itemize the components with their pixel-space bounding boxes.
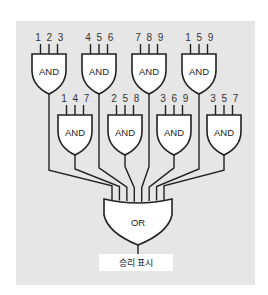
tic-tac-toe-win-logic-diagram: 1 2 3AND4 5 6AND7 8 9AND1 5 9AND1 4 7AND… bbox=[0, 0, 268, 295]
input-label: 3 6 9 bbox=[160, 93, 190, 104]
and-gate-label: AND bbox=[139, 66, 159, 77]
and-gate-label: AND bbox=[89, 66, 109, 77]
input-label: 4 5 6 bbox=[85, 32, 115, 43]
and-gate-456: 4 5 6AND bbox=[82, 32, 116, 94]
input-label: 3 5 7 bbox=[210, 93, 240, 104]
input-label: 1 2 3 bbox=[35, 32, 65, 43]
and-gate-label: AND bbox=[39, 66, 59, 77]
and-gate-label: AND bbox=[65, 127, 85, 138]
and-gate-label: AND bbox=[189, 66, 209, 77]
and-gate-258: 2 5 8AND bbox=[108, 93, 142, 155]
input-label: 2 5 8 bbox=[111, 93, 141, 104]
and-gate-789: 7 8 9AND bbox=[132, 32, 166, 94]
win-indicator-label: 승리 표시 bbox=[119, 258, 154, 268]
and-gate-label: AND bbox=[115, 127, 135, 138]
and-gate-357: 3 5 7AND bbox=[207, 93, 241, 155]
or-gate-label: OR bbox=[131, 217, 145, 228]
and-gate-147: 1 4 7AND bbox=[58, 93, 92, 155]
input-label: 1 4 7 bbox=[61, 93, 91, 104]
and-gate-123: 1 2 3AND bbox=[32, 32, 66, 94]
and-gate-label: AND bbox=[164, 127, 184, 138]
and-gate-label: AND bbox=[214, 127, 234, 138]
input-label: 7 8 9 bbox=[135, 32, 165, 43]
input-label: 1 5 9 bbox=[185, 32, 215, 43]
and-gate-159: 1 5 9AND bbox=[182, 32, 216, 94]
and-gate-369: 3 6 9AND bbox=[157, 93, 191, 155]
